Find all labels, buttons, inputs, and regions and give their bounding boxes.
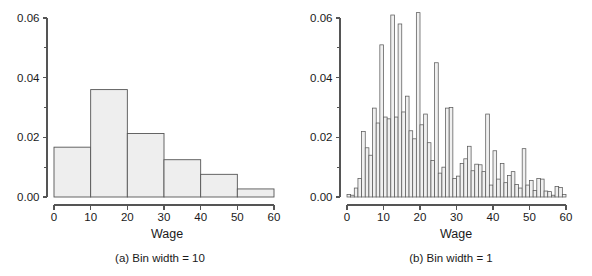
histogram-bar (435, 63, 439, 197)
x-axis-tick-label: 20 (414, 211, 427, 223)
x-axis-tick-label: 30 (158, 211, 171, 223)
histogram-bar (354, 188, 358, 197)
panel-a-bars (54, 90, 274, 197)
histogram-bar (526, 185, 530, 197)
histogram-bar (358, 179, 362, 198)
x-axis-tick-label: 20 (121, 211, 134, 223)
histogram-bar (127, 133, 164, 197)
histogram-bar (530, 181, 534, 197)
histogram-bar (508, 176, 512, 197)
x-axis-tick-label: 30 (450, 211, 463, 223)
histogram-bar (427, 143, 431, 197)
histogram-bar (504, 183, 508, 197)
histogram-bar (482, 172, 486, 197)
histogram-bar (416, 13, 420, 197)
histogram-bar (493, 151, 497, 197)
histogram-bar (522, 149, 526, 197)
histogram-bar (511, 172, 515, 197)
histogram-bar (460, 164, 464, 197)
histogram-bar (446, 108, 450, 197)
histogram-bar (537, 179, 541, 198)
histogram-bar (391, 15, 395, 197)
x-axis-tick-label: 10 (377, 211, 390, 223)
histogram-bar (420, 125, 424, 197)
histogram-bar (478, 165, 482, 197)
panel-a-histogram-binwidth-10: 0.000.020.040.060102030405060 Wage (a) B… (0, 0, 296, 276)
panel-b-histogram-binwidth-1: 0.000.020.040.060102030405060 Wage (b) B… (296, 0, 592, 276)
histogram-bar (394, 117, 398, 197)
histogram-bar (540, 179, 544, 197)
histogram-bar (54, 147, 91, 197)
histogram-bar (515, 184, 519, 197)
x-axis-tick-label: 10 (84, 211, 97, 223)
y-axis-tick-label: 0.06 (17, 12, 39, 24)
histogram-bar (237, 189, 274, 197)
histogram-bar (559, 187, 563, 197)
panel-b-bars (347, 13, 566, 197)
histogram-bar (362, 131, 366, 197)
histogram-bar (453, 179, 457, 198)
histogram-bar (351, 195, 355, 197)
panel-a-plot: 0.000.020.040.060102030405060 Wage (a) B… (0, 0, 296, 276)
histogram-bar (438, 173, 442, 197)
histogram-bar (548, 192, 552, 197)
y-axis-tick-label: 0.00 (310, 191, 332, 203)
histogram-bar (413, 139, 417, 197)
histogram-bar (409, 131, 413, 197)
figure-two-histograms: 0.000.020.040.060102030405060 Wage (a) B… (0, 0, 592, 276)
histogram-bar (449, 108, 453, 198)
y-axis-tick-label: 0.02 (310, 131, 332, 143)
histogram-bar (347, 195, 351, 197)
histogram-bar (562, 195, 566, 197)
x-axis-tick-label: 0 (51, 211, 57, 223)
panel-b-plot: 0.000.020.040.060102030405060 Wage (b) B… (296, 0, 592, 276)
histogram-bar (384, 117, 388, 197)
histogram-bar (380, 45, 384, 197)
histogram-bar (500, 164, 504, 197)
panel-a-xaxis-title: Wage (151, 227, 183, 241)
histogram-bar (486, 114, 490, 197)
x-axis-tick-label: 50 (523, 211, 536, 223)
histogram-bar (471, 171, 475, 197)
histogram-bar (431, 161, 435, 197)
histogram-bar (544, 191, 548, 197)
histogram-bar (457, 176, 461, 197)
histogram-bar (475, 164, 479, 197)
x-axis-tick-label: 40 (487, 211, 500, 223)
x-axis-tick-label: 50 (231, 211, 244, 223)
y-axis-tick-label: 0.04 (310, 72, 333, 84)
panel-b-xaxis-title: Wage (440, 227, 472, 241)
histogram-bar (497, 179, 501, 197)
y-axis-tick-label: 0.00 (17, 191, 39, 203)
histogram-bar (201, 174, 238, 197)
histogram-bar (519, 188, 523, 197)
histogram-bar (551, 195, 555, 197)
x-axis-tick-label: 40 (194, 211, 207, 223)
histogram-bar (424, 114, 428, 197)
y-axis-tick-label: 0.02 (17, 131, 39, 143)
x-axis-tick-label: 60 (268, 211, 281, 223)
histogram-bar (373, 108, 377, 197)
histogram-bar (398, 24, 402, 197)
histogram-bar (467, 146, 471, 197)
histogram-bar (376, 123, 380, 197)
histogram-bar (387, 119, 391, 197)
panel-a-caption: (a) Bin width = 10 (115, 252, 205, 264)
histogram-bar (464, 159, 468, 197)
histogram-bar (365, 148, 369, 197)
x-axis-tick-label: 60 (560, 211, 573, 223)
y-axis-tick-label: 0.04 (17, 72, 40, 84)
x-axis-tick-label: 0 (344, 211, 350, 223)
histogram-bar (405, 96, 409, 197)
histogram-bar (91, 90, 128, 197)
histogram-bar (369, 155, 373, 197)
histogram-bar (164, 160, 201, 197)
histogram-bar (533, 190, 537, 197)
histogram-bar (489, 185, 493, 197)
histogram-bar (555, 187, 559, 197)
panel-b-caption: (b) Bin width = 1 (409, 252, 492, 264)
y-axis-tick-label: 0.06 (310, 12, 332, 24)
histogram-bar (442, 167, 446, 197)
histogram-bar (402, 112, 406, 197)
